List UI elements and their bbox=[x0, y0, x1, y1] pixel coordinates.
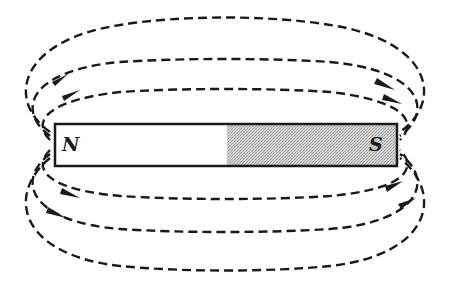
field-lines-bottom bbox=[26, 150, 424, 271]
field-line-bottom-outer bbox=[26, 158, 424, 271]
arrow-icon bbox=[46, 207, 66, 218]
bar-magnet: N S bbox=[55, 124, 397, 166]
arrow-icon bbox=[398, 198, 416, 209]
arrow-icon bbox=[374, 78, 395, 90]
arrow-icon bbox=[382, 94, 402, 104]
bar-magnet-diagram: N S bbox=[0, 0, 450, 287]
field-line-top-outer bbox=[26, 18, 424, 133]
south-pole-label: S bbox=[369, 133, 383, 155]
north-pole-label: N bbox=[61, 133, 80, 155]
magnet-north-half bbox=[55, 124, 227, 166]
field-lines-top bbox=[26, 18, 424, 141]
arrow-icon bbox=[385, 181, 403, 192]
